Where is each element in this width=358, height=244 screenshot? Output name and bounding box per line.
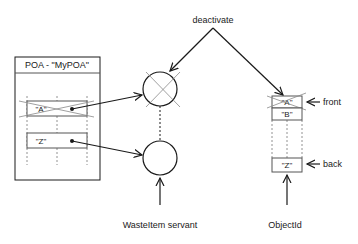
poa-entry-z: "Z" xyxy=(27,133,87,148)
queue-entry-b: "B" xyxy=(272,108,302,120)
svg-text:"Z": "Z" xyxy=(282,161,293,170)
deactivate-queue-arrow xyxy=(213,28,283,95)
svg-text:"A": "A" xyxy=(281,98,292,107)
back-label: back xyxy=(323,159,343,169)
queue-entry-z: "Z" xyxy=(272,158,302,172)
poa-box: POA - "MyPOA" "A" "Z" xyxy=(15,57,100,180)
queue-entry-a: "A" xyxy=(267,93,306,110)
objectid-label: ObjectId xyxy=(268,220,302,230)
diagram-canvas: POA - "MyPOA" "A" "Z" WasteItem xyxy=(0,0,358,244)
servant-bottom xyxy=(143,141,177,175)
deactivate-label: deactivate xyxy=(192,15,233,25)
servant-label: WasteItem servant xyxy=(123,220,198,230)
poa-title: POA - "MyPOA" xyxy=(25,60,89,70)
front-label: front xyxy=(323,97,342,107)
deactivate-servant-arrow xyxy=(170,28,213,71)
poa-entry-a: "A" xyxy=(19,101,94,117)
svg-text:"Z": "Z" xyxy=(36,137,47,146)
servant-top xyxy=(143,72,180,107)
svg-text:"B": "B" xyxy=(281,110,292,119)
objectid-queue: "A" "B" "Z" xyxy=(267,93,306,172)
